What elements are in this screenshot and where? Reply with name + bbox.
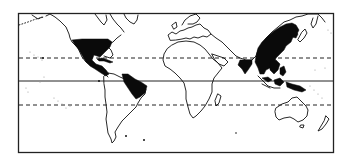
alaska-dotted	[19, 17, 44, 25]
africa-outline	[163, 41, 222, 118]
range-indonesia-new-guinea	[262, 77, 306, 92]
british-isles-outline	[172, 22, 177, 29]
japan-outline	[298, 29, 307, 42]
range-indochina-philippines	[270, 60, 286, 76]
europe-outline	[168, 24, 211, 40]
greenland-outline	[124, 14, 138, 24]
new-zealand-outline	[318, 116, 329, 131]
range-india	[238, 60, 252, 74]
kamchatka-outline	[311, 16, 318, 28]
island-dot	[235, 132, 237, 134]
island-dot	[143, 139, 145, 141]
madagascar-outline	[215, 94, 221, 106]
island-dot	[125, 135, 127, 137]
tasmania-outline	[300, 125, 304, 128]
world-distribution-map	[0, 0, 351, 161]
island-dot	[42, 57, 44, 59]
scandinavia-outline	[182, 14, 200, 25]
range-caribbean	[97, 58, 113, 63]
island-dot	[98, 80, 100, 82]
australia-outline	[275, 97, 308, 122]
